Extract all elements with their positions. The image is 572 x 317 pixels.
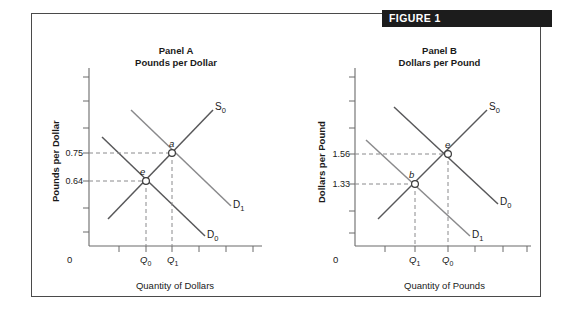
panel-a-curve-label-d0-sub: 0 xyxy=(214,234,218,243)
panel-a-xtick-q1: Q1 xyxy=(167,254,178,267)
panel-a-y-axis-label: Pounds per Dollar xyxy=(50,120,61,202)
panel-b-ytick-156: 1.56 xyxy=(320,149,350,159)
panel-a-title-line2: Pounds per Dollar xyxy=(121,57,231,69)
panel-a-curve-label-s0-sub: 0 xyxy=(222,106,226,115)
panel-b-y-axis-label: Dollars per Pound xyxy=(316,121,327,203)
panel-a-supply-curve-s0 xyxy=(108,110,213,219)
panel-a-origin-label: 0 xyxy=(67,254,72,265)
panel-a-curve-label-s0-base: S xyxy=(215,101,222,112)
panel-a-point-marker-a xyxy=(169,150,176,157)
panel-b-point-marker-b xyxy=(412,181,419,188)
panel-b-point-label-e: e xyxy=(445,139,450,150)
panel-a-xtick-q0: Q0 xyxy=(140,254,151,267)
panel-a-curve-label-d1-sub: 1 xyxy=(240,204,244,213)
panel-b-curve-label-s0-sub: 0 xyxy=(496,106,500,115)
panel-b-curve-label-d0-sub: 0 xyxy=(507,201,511,210)
panel-b-xtick-q1: Q1 xyxy=(409,254,420,267)
panel-a-title: Panel A Pounds per Dollar xyxy=(121,45,231,69)
panel-b-ytick-133: 1.33 xyxy=(320,179,350,189)
panel-a-y-ticks xyxy=(83,77,89,232)
panel-a-curve-label-s0: S0 xyxy=(215,101,226,115)
panel-a-point-label-a: a xyxy=(169,138,174,149)
panel-a-xtick-q0-sub: 0 xyxy=(147,260,151,267)
panel-b-title-line1: Panel B xyxy=(382,45,497,57)
panel-a-xtick-q1-sub: 1 xyxy=(174,260,178,267)
panel-a-point-label-e: e xyxy=(140,166,145,177)
panel-b-plot xyxy=(349,68,531,252)
panel-b-point-marker-e xyxy=(445,151,452,158)
panel-a-curve-label-d1: D1 xyxy=(233,199,244,213)
panel-a-curve-label-d0: D0 xyxy=(207,229,218,243)
panel-b-supply-curve-s0 xyxy=(378,110,487,219)
panel-a-x-ticks xyxy=(119,246,253,252)
panel-b-origin-label: 0 xyxy=(333,254,338,265)
panel-b-curve-label-d1-sub: 1 xyxy=(479,234,483,243)
panel-b-x-ticks xyxy=(385,246,527,252)
panel-a-title-line1: Panel A xyxy=(121,45,231,57)
figure-container: FIGURE 1 xyxy=(0,0,572,317)
panel-a-plot xyxy=(83,68,262,252)
panel-b-xtick-q0-sub: 0 xyxy=(449,260,453,267)
panel-b-curve-label-s0-base: S xyxy=(489,101,496,112)
panel-b-point-label-b: b xyxy=(409,169,414,180)
panel-b-title: Panel B Dollars per Pound xyxy=(382,45,497,69)
panel-b-curve-label-d0: D0 xyxy=(500,196,511,210)
panel-a-point-marker-e xyxy=(143,178,150,185)
panel-b-xtick-q1-sub: 1 xyxy=(416,260,420,267)
panel-b-curve-label-s0: S0 xyxy=(489,101,500,115)
panel-a-x-axis-label: Quantity of Dollars xyxy=(105,280,245,291)
panel-a-demand-curve-d0 xyxy=(102,137,205,236)
panel-a-ytick-075: 0.75 xyxy=(57,148,83,158)
panel-a-ytick-064: 0.64 xyxy=(57,176,83,186)
panel-b-x-axis-label: Quantity of Pounds xyxy=(372,280,517,291)
panel-b-xtick-q0: Q0 xyxy=(442,254,453,267)
panel-b-title-line2: Dollars per Pound xyxy=(382,57,497,69)
panel-b-curve-label-d1: D1 xyxy=(472,229,483,243)
